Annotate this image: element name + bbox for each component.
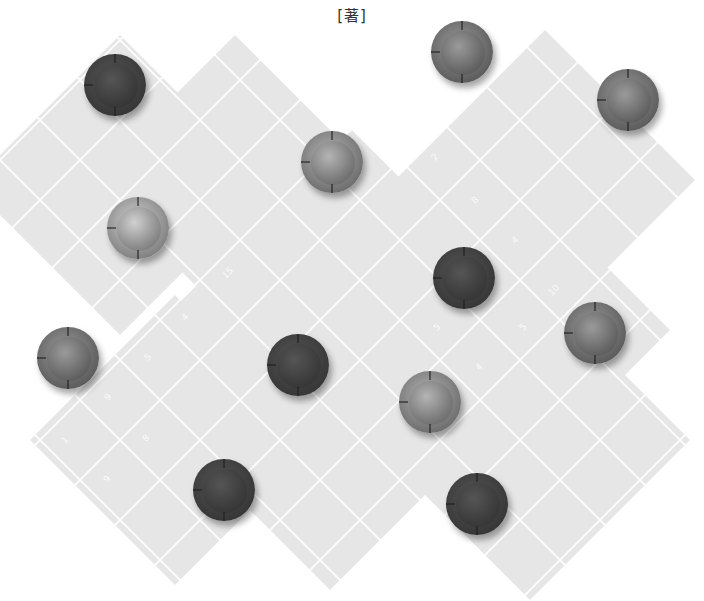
piece-notch [331,131,333,140]
piece-face [443,257,487,301]
piece-face [94,64,138,108]
piece-notch [564,332,573,334]
piece-notch [461,74,463,83]
piece-notch [37,357,46,359]
piece-face [456,483,500,527]
piece-notch [331,184,333,193]
piece-face [277,344,321,388]
checker-piece-medium[interactable] [431,21,493,83]
piece-notch [193,489,202,491]
piece-notch [114,107,116,116]
piece-notch [84,84,93,86]
piece-notch [429,371,431,380]
checker-piece-dark[interactable] [84,54,146,116]
piece-notch [431,51,440,53]
checker-piece-dark[interactable] [446,473,508,535]
checker-piece-light[interactable] [107,197,169,259]
piece-face [47,337,91,381]
piece-face [607,79,651,123]
piece-face [117,207,161,251]
piece-face [311,141,355,185]
piece-notch [594,302,596,311]
piece-notch [137,197,139,206]
checker-piece-medium-light[interactable] [399,371,461,433]
piece-notch [114,54,116,63]
piece-face [203,469,247,513]
checker-piece-dark[interactable] [193,459,255,521]
checker-piece-medium[interactable] [37,327,99,389]
piece-face [441,31,485,75]
checker-piece-medium-light[interactable] [301,131,363,193]
piece-notch [67,380,69,389]
piece-notch [301,161,310,163]
checker-piece-medium[interactable] [564,302,626,364]
piece-notch [627,69,629,78]
piece-notch [267,364,276,366]
piece-notch [137,250,139,259]
piece-notch [107,227,116,229]
piece-notch [429,424,431,433]
piece-notch [627,122,629,131]
piece-notch [461,21,463,30]
piece-face [409,381,453,425]
piece-notch [297,387,299,396]
checker-piece-dark[interactable] [433,247,495,309]
piece-notch [297,334,299,343]
piece-notch [597,99,606,101]
piece-notch [399,401,408,403]
piece-face [574,312,618,356]
piece-notch [433,277,442,279]
checker-piece-dark[interactable] [267,334,329,396]
piece-notch [223,459,225,468]
piece-notch [67,327,69,336]
checker-piece-medium[interactable] [597,69,659,131]
piece-notch [223,512,225,521]
piece-notch [476,526,478,535]
piece-notch [594,355,596,364]
piece-notch [446,503,455,505]
piece-notch [463,300,465,309]
piece-notch [476,473,478,482]
piece-notch [463,247,465,256]
